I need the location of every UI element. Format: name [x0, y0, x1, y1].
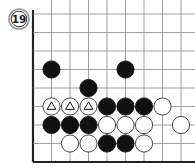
board-grid	[33, 0, 195, 162]
white-stone	[43, 98, 60, 115]
white-stone	[135, 116, 152, 133]
black-stone	[43, 61, 60, 78]
white-stone	[98, 116, 115, 133]
black-stone	[98, 135, 115, 152]
problem-number-badge: 19	[8, 8, 30, 30]
black-stone	[61, 116, 78, 133]
white-stone	[80, 135, 97, 152]
black-stone	[98, 98, 115, 115]
black-stone	[80, 79, 97, 96]
white-stone	[61, 135, 78, 152]
black-stone	[117, 135, 134, 152]
black-stone	[117, 98, 134, 115]
white-stone	[154, 98, 171, 115]
white-stone	[61, 98, 78, 115]
white-stone	[117, 116, 134, 133]
problem-number: 19	[12, 13, 27, 25]
black-stone	[80, 116, 97, 133]
black-stone	[135, 98, 152, 115]
black-stone	[43, 116, 60, 133]
white-stone	[135, 135, 152, 152]
white-stone	[80, 98, 97, 115]
black-stone	[117, 61, 134, 78]
white-stone	[172, 116, 189, 133]
